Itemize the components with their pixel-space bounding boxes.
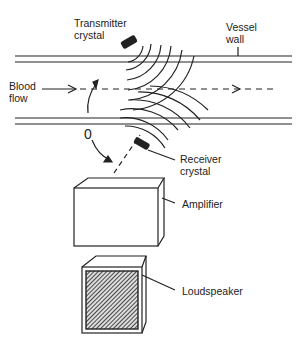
blood-flow-label: Blood flow [9,80,36,104]
reflected-waves [120,86,208,148]
vessel-wall-label: Vessel wall [226,21,257,45]
transmitter-label: Transmitter crystal [74,17,127,41]
receiver-crystal [133,136,150,150]
doppler-diagram [0,0,306,337]
amplifier-box [74,178,164,246]
label-line: wall [226,33,257,45]
amplifier-label: Amplifier [182,198,223,210]
receiver-leader [148,150,175,160]
angle-arrow-up [88,84,96,113]
loudspeaker-label: Loudspeaker [182,285,243,297]
label-line: Receiver [180,153,221,165]
loudspeaker-leader [142,275,175,290]
receiver-label: Receiver crystal [180,153,221,177]
label-line: crystal [74,29,127,41]
label-line: crystal [180,165,221,177]
label-line: Vessel [226,21,257,33]
label-line: Blood [9,80,36,92]
angle-label: 0 [84,128,92,140]
loudspeaker-box [82,256,146,333]
vessel-bottom-wall [15,118,292,124]
label-line: Transmitter [74,17,127,29]
label-line: flow [9,92,36,104]
vessel-top-wall [15,56,292,62]
